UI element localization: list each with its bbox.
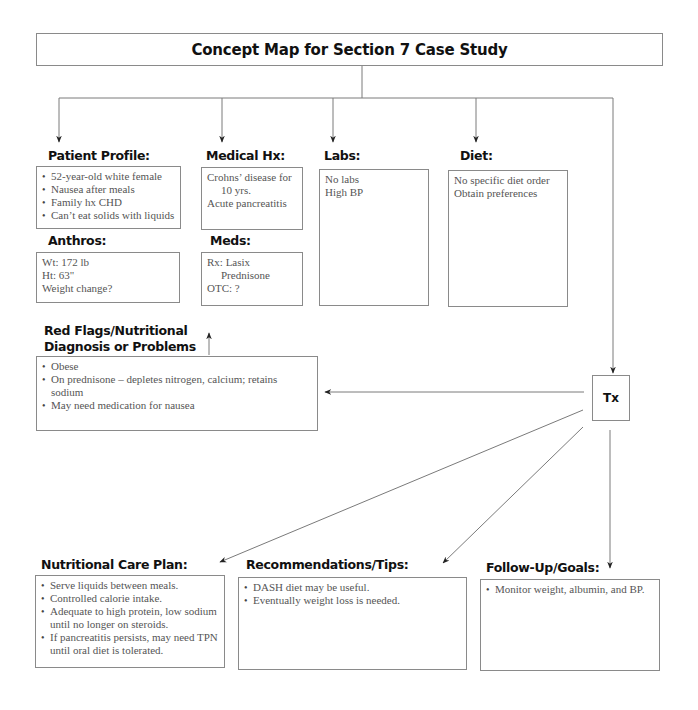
recommendations-item: Eventually weight loss is needed. — [244, 594, 461, 607]
medical-hx-line: Crohns’ disease for — [207, 171, 297, 184]
meds-box: Rx: Lasix Prednisone OTC: ? — [201, 252, 303, 306]
care-plan-box: Serve liquids between meals. Controlled … — [35, 575, 225, 668]
medical-hx-line: 10 yrs. — [207, 184, 297, 197]
patient-profile-item: Nausea after meals — [42, 183, 175, 196]
care-plan-item: If pancreatitis persists, may need TPN u… — [41, 631, 219, 657]
tx-box: Tx — [592, 375, 630, 421]
meds-line: OTC: ? — [207, 282, 297, 295]
anthros-line: Wt: 172 lb — [42, 256, 174, 269]
care-plan-heading: Nutritional Care Plan: — [41, 557, 187, 573]
medical-hx-line: Acute pancreatitis — [207, 197, 297, 210]
care-plan-item: Adequate to high protein, low sodium unt… — [41, 605, 219, 631]
anthros-box: Wt: 172 lb Ht: 63" Weight change? — [36, 252, 180, 303]
title-box: Concept Map for Section 7 Case Study — [36, 33, 663, 66]
patient-profile-box: 52-year-old white female Nausea after me… — [36, 166, 181, 229]
follow-up-item: Monitor weight, albumin, and BP. — [486, 583, 654, 596]
medical-hx-box: Crohns’ disease for 10 yrs. Acute pancre… — [201, 167, 303, 230]
labs-box: No labs High BP — [319, 169, 429, 306]
anthros-line: Weight change? — [42, 282, 174, 295]
meds-line: Prednisone — [207, 269, 297, 282]
red-flags-heading-line2: Diagnosis or Problems — [44, 339, 196, 355]
diet-line: No specific diet order — [454, 174, 562, 187]
page-title: Concept Map for Section 7 Case Study — [191, 41, 507, 59]
patient-profile-heading: Patient Profile: — [48, 148, 150, 164]
tx-label: Tx — [603, 391, 619, 405]
red-flags-item: May need medication for nausea — [42, 399, 312, 412]
anthros-line: Ht: 63" — [42, 269, 174, 282]
labs-line: High BP — [325, 186, 423, 199]
red-flags-item: Obese — [42, 360, 312, 373]
follow-up-box: Monitor weight, albumin, and BP. — [480, 579, 660, 671]
care-plan-item: Serve liquids between meals. — [41, 579, 219, 592]
medical-hx-heading: Medical Hx: — [206, 148, 285, 164]
diet-box: No specific diet order Obtain preference… — [448, 170, 568, 307]
care-plan-item: Controlled calorie intake. — [41, 592, 219, 605]
follow-up-heading: Follow-Up/Goals: — [486, 560, 599, 576]
diet-heading: Diet: — [460, 148, 493, 164]
patient-profile-item: Can’t eat solids with liquids — [42, 209, 175, 222]
diet-line: Obtain preferences — [454, 187, 562, 200]
patient-profile-item: 52-year-old white female — [42, 170, 175, 183]
concept-map-canvas: Concept Map for Section 7 Case Study Pat… — [0, 0, 698, 710]
meds-line: Rx: Lasix — [207, 256, 297, 269]
recommendations-heading: Recommendations/Tips: — [246, 557, 409, 573]
red-flags-heading-line1: Red Flags/Nutritional — [44, 323, 196, 339]
red-flags-box: Obese On prednisone – depletes nitrogen,… — [36, 356, 318, 431]
patient-profile-item: Family hx CHD — [42, 196, 175, 209]
meds-heading: Meds: — [210, 233, 251, 249]
red-flags-item: On prednisone – depletes nitrogen, calci… — [42, 373, 312, 399]
labs-line: No labs — [325, 173, 423, 186]
recommendations-box: DASH diet may be useful. Eventually weig… — [238, 577, 467, 670]
red-flags-heading: Red Flags/Nutritional Diagnosis or Probl… — [44, 323, 196, 355]
labs-heading: Labs: — [324, 148, 360, 164]
anthros-heading: Anthros: — [48, 233, 106, 249]
recommendations-item: DASH diet may be useful. — [244, 581, 461, 594]
